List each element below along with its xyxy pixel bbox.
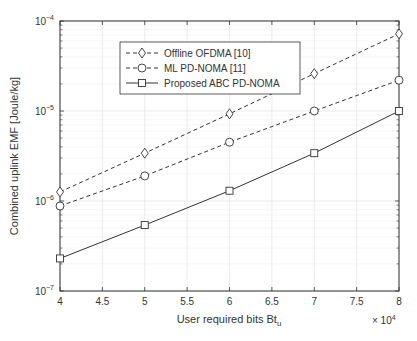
x-tick-label: 6.5: [265, 296, 279, 307]
y-tick-label: 10−4: [35, 14, 54, 27]
x-tick-label: 4: [57, 296, 63, 307]
x-tick-label: 7.5: [350, 296, 364, 307]
y-tick-label: 10−7: [35, 284, 54, 297]
x-tick-label: 5: [142, 296, 148, 307]
y-tick-label: 10−5: [35, 104, 54, 117]
x-axis-label: User required bits Btu: [177, 313, 282, 328]
x-tick-label: 7: [311, 296, 317, 307]
legend-label: ML PD-NOMA [11]: [164, 63, 246, 74]
legend-label: Proposed ABC PD-NOMA: [164, 78, 280, 89]
y-tick-label: 10−6: [35, 194, 54, 207]
legend-label: Offline OFDMA [10]: [164, 48, 251, 59]
chart: 44.555.566.577.5810−410−510−610−7 Offlin…: [0, 0, 417, 341]
x-tick-label: 6: [227, 296, 233, 307]
legend: Offline OFDMA [10]ML PD-NOMA [11]Propose…: [120, 42, 300, 94]
x-multiplier: × 104: [372, 314, 396, 326]
x-tick-label: 5.5: [180, 296, 194, 307]
x-tick-label: 8: [396, 296, 402, 307]
y-axis-label: Combined uplink EMF [Joule/kg]: [8, 77, 20, 235]
x-tick-label: 4.5: [95, 296, 109, 307]
